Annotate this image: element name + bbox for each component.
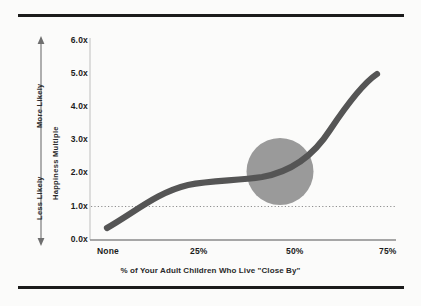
y-tick-6: 6.0x <box>54 36 88 45</box>
y-tick-4: 4.0x <box>54 102 88 111</box>
x-tick-none: None <box>97 246 119 256</box>
page-background: 6.0x 5.0x 4.0x 3.0x 2.0x 1.0x 0.0x None … <box>0 0 421 306</box>
x-axis-title: % of Your Adult Children Who Live "Close… <box>0 266 421 275</box>
y-axis-more-likely-label: More Likely <box>35 83 44 128</box>
y-tick-0: 0.0x <box>54 235 88 244</box>
x-tick-75: 75% <box>379 246 397 256</box>
y-axis-less-likely-label: Less Likely <box>35 176 44 220</box>
y-tick-1: 1.0x <box>54 202 88 211</box>
x-tick-25: 25% <box>190 246 208 256</box>
happiness-multiple-line <box>107 74 377 228</box>
y-axis-title: Happiness Multiple <box>51 126 60 200</box>
y-tick-5: 5.0x <box>54 69 88 78</box>
x-tick-50: 50% <box>286 246 304 256</box>
